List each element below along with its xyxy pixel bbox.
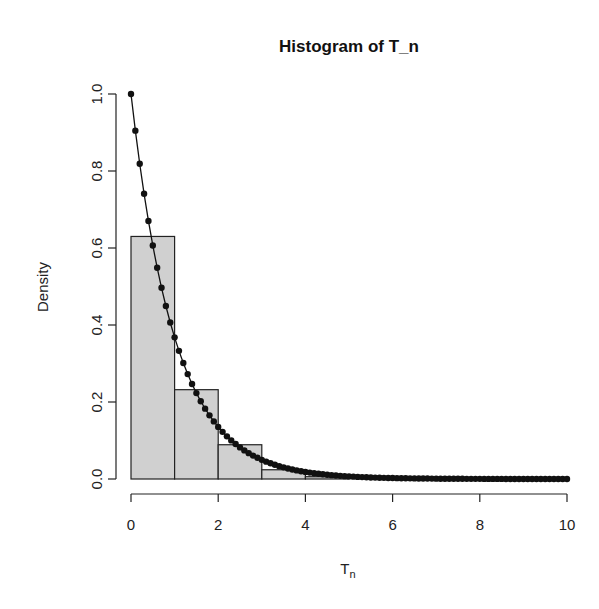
x-tick-label: 10 [559,516,576,533]
x-axis: 0246810 [127,494,576,533]
curve-point [145,218,151,224]
y-axis-label: Density [34,261,51,312]
curve-point [564,476,570,482]
y-tick-label: 0.8 [88,161,105,182]
y-tick-label: 0.6 [88,238,105,259]
y-tick-label: 1.0 [88,84,105,105]
chart-title: Histogram of T_n [279,37,419,56]
x-axis-label: Tn [340,560,355,580]
curve-point [171,334,177,340]
svg-text:Tn: Tn [340,560,355,580]
curve-point [193,390,199,396]
x-tick-label: 0 [127,516,135,533]
x-tick-label: 8 [476,516,484,533]
x-tick-label: 2 [214,516,222,533]
curve-point [158,285,164,291]
histogram-bar [131,236,175,479]
curve-point [184,371,190,377]
curve-point [154,265,160,271]
curve-point [198,398,204,404]
curve-point [128,91,134,97]
histogram-bar [175,390,219,479]
curve-point [180,360,186,366]
histogram-bars [131,236,349,479]
histogram-chart: Histogram of T_n 0.00.20.40.60.81.0 0246… [0,0,599,609]
curve-point [202,405,208,411]
curve-point [211,418,217,424]
curve-point [137,161,143,167]
y-tick-label: 0.4 [88,315,105,336]
x-tick-label: 6 [388,516,396,533]
curve-point [215,424,221,430]
y-axis: 0.00.20.40.60.81.0 [88,84,116,490]
y-tick-label: 0.0 [88,469,105,490]
curve-point [132,127,138,133]
curve-point [206,412,212,418]
curve-point [189,381,195,387]
curve-point [141,191,147,197]
y-tick-label: 0.2 [88,392,105,413]
curve-point [176,348,182,354]
x-tick-label: 4 [301,516,309,533]
curve-point [167,319,173,325]
curve-point [150,242,156,248]
curve-point [163,303,169,309]
